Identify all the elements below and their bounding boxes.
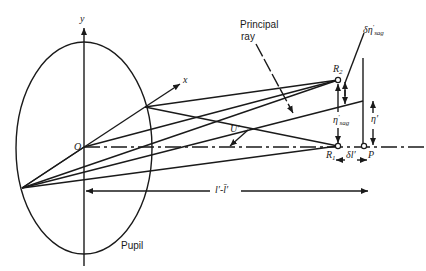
ray-a-r2 (145, 80, 338, 107)
delta-eta-sag-label: δη′sag (363, 24, 384, 37)
ray-l-r1 (22, 146, 338, 188)
x-axis-label: x (183, 75, 187, 85)
pupil-label: Pupil (121, 241, 143, 251)
delta-eta-sag-pointer (345, 33, 364, 83)
r1-label: R1 (326, 150, 336, 162)
ray-l-r2 (22, 80, 338, 188)
ray-diagram-canvas (0, 0, 426, 271)
p-label: P (368, 150, 374, 160)
eta-prime-label: η′ (371, 114, 378, 124)
x-axis (145, 84, 180, 107)
principal-ray-label-1: Principal (240, 20, 278, 30)
point-p (361, 143, 366, 148)
y-axis-label: y (80, 14, 84, 24)
ray-l-o (22, 147, 84, 188)
point-r2 (335, 77, 340, 82)
principal-ray-label-2: ray (241, 32, 255, 42)
principal-ray-pointer (256, 44, 293, 113)
ray-o-r2 (84, 80, 338, 147)
delta-l-label: δl′ (346, 150, 356, 160)
eta-sag-label: η′sag (333, 114, 349, 127)
r2-label: R2 (333, 64, 343, 76)
u-prime-label: U′ (230, 124, 239, 134)
distance-label: l′-l̄′ (215, 185, 228, 195)
point-r1 (335, 143, 340, 148)
origin-label: O (74, 142, 81, 152)
